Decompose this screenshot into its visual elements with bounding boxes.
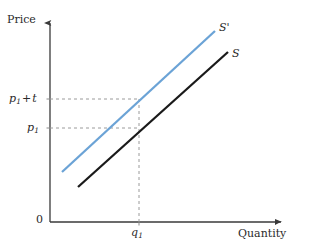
supply-curve-original xyxy=(78,52,228,187)
origin-label: 0 xyxy=(36,214,43,225)
x-axis-title: Quantity xyxy=(238,228,286,239)
y-axis-title: Price xyxy=(7,14,36,25)
y-tick-label-price-lower: p1 xyxy=(27,122,39,135)
supply-curve-diagram: Price Quantity p1+t p1 q1 0 S' S xyxy=(0,0,317,247)
quantity-base: q xyxy=(131,226,138,239)
price-lower-base: p xyxy=(27,121,34,134)
price-upper-operator: + xyxy=(22,92,31,105)
x-tick-label-quantity: q1 xyxy=(131,227,143,240)
price-upper-base: p xyxy=(9,92,16,105)
price-lower-subscript: 1 xyxy=(34,126,39,135)
price-upper-subscript: 1 xyxy=(16,97,21,106)
price-upper-tax: t xyxy=(32,92,36,105)
curve-label-supply-shifted: S' xyxy=(219,22,230,33)
curve-label-supply-original: S xyxy=(232,48,240,59)
diagram-canvas xyxy=(0,0,317,247)
supply-curve-shifted xyxy=(62,31,215,172)
quantity-subscript: 1 xyxy=(138,231,143,240)
y-tick-label-price-upper: p1+t xyxy=(9,93,37,106)
